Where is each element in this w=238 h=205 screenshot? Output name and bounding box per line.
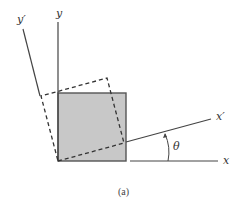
x-prime-axis	[126, 119, 211, 142]
y-prime-axis	[23, 29, 40, 96]
theta-arc	[165, 134, 169, 161]
figure-caption: (a)	[118, 187, 129, 197]
shaded-square	[58, 93, 126, 161]
x-prime-axis-label: x′	[216, 111, 225, 122]
y-axis-label: y	[56, 8, 62, 19]
y-prime-axis-label: y′	[17, 14, 26, 25]
theta-label: θ	[173, 141, 180, 152]
x-axis-label: x	[223, 155, 229, 166]
rotation-diagram	[0, 0, 238, 205]
